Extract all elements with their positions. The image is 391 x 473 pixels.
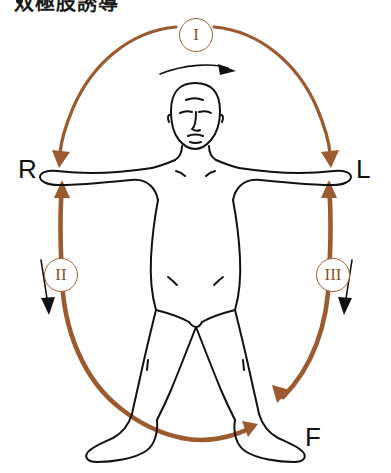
left-down-arrowhead — [41, 297, 55, 315]
chin-line — [190, 142, 201, 143]
neck-right — [209, 146, 216, 160]
lead-badge-I: I — [179, 18, 213, 52]
top-sweep-arrowhead — [218, 64, 236, 75]
electrode-label-F: F — [305, 424, 321, 450]
right-down-arrowhead — [338, 297, 352, 315]
lead-badge-II: II — [44, 258, 78, 292]
neck-left — [175, 146, 182, 160]
leg-right-outer — [235, 310, 259, 414]
lead-arrowheads-group — [52, 150, 339, 437]
arm-right-bottom — [233, 180, 260, 200]
clavicle-left — [176, 171, 185, 176]
torso-left-side — [151, 200, 158, 310]
arm-left-bottom — [131, 180, 158, 200]
lead-arcs-group — [60, 27, 331, 440]
foot-left-outline — [86, 414, 157, 462]
eyebrow-right — [199, 111, 211, 113]
arm-left-top — [57, 168, 152, 173]
crotch-left — [156, 310, 189, 322]
foot-right-outline — [234, 414, 304, 462]
lead-III-arc-lower — [283, 276, 329, 397]
electrode-label-R: R — [18, 156, 37, 182]
nose — [192, 112, 200, 131]
waist-dimple-left — [168, 277, 177, 285]
torso-right-side — [233, 200, 240, 310]
electrode-label-L: L — [356, 156, 370, 182]
diagram-canvas: 双極肢誘導 — [0, 0, 391, 473]
top-sweep-arrow-shaft — [160, 65, 228, 74]
body-and-leads-svg — [0, 0, 391, 473]
waist-dimple-right — [214, 277, 223, 285]
arrowhead-lead-III-up — [321, 180, 337, 198]
collar-right — [216, 160, 239, 168]
lead-I-right-arc — [214, 27, 330, 153]
knee-right-hint — [243, 360, 244, 370]
direction-arrowheads-group — [41, 64, 352, 315]
knee-left-hint — [147, 360, 148, 370]
direction-arrows-group — [41, 65, 352, 305]
arrowhead-lead-I-to-L — [321, 150, 339, 168]
arm-right-top — [239, 168, 334, 173]
leg-right-inner — [196, 327, 235, 420]
leg-left-outer — [132, 310, 156, 414]
arrowhead-lead-I-to-R — [52, 150, 70, 168]
lead-II-arc-lower — [62, 276, 182, 438]
leg-left-inner — [157, 327, 196, 420]
collar-left — [152, 160, 175, 168]
lead-badge-III: III — [316, 258, 350, 292]
bottom-arc-to-F — [182, 427, 252, 440]
lead-I-left-arc — [60, 27, 176, 153]
human-body-figure — [40, 83, 351, 462]
clavicle-right — [206, 171, 215, 176]
hair-tuft — [186, 99, 203, 101]
crotch-right — [202, 310, 235, 322]
eyebrow-left — [180, 111, 192, 113]
arrowhead-lead-II-up — [54, 180, 70, 198]
mouth — [188, 135, 203, 137]
